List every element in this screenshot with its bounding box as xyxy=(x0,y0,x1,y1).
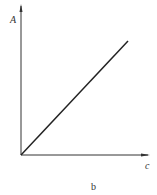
chart-canvas xyxy=(0,0,157,195)
y-axis-arrow-icon xyxy=(20,4,23,12)
figure-caption: b xyxy=(91,181,96,192)
data-line xyxy=(21,41,128,155)
x-axis-arrow-icon xyxy=(141,154,150,157)
y-axis-label: A xyxy=(10,14,16,25)
x-axis-label: c xyxy=(145,160,149,171)
